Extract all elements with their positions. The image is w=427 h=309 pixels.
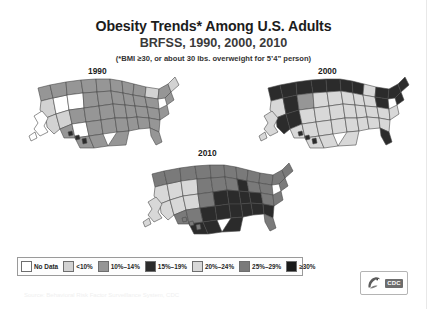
map-panel-2000: 2000 [256, 66, 421, 150]
map-panel-2010: 2010 [140, 148, 305, 240]
page-title: Obesity Trends* Among U.S. Adults [0, 18, 427, 34]
legend-label: 25%–29% [252, 263, 281, 271]
page-subtitle: BRFSS, 1990, 2000, 2010 [0, 36, 427, 51]
legend-label: 10%–14% [111, 263, 140, 271]
legend-item: ≥30% [286, 261, 315, 272]
legend-swatch-25-29 [239, 261, 250, 272]
legend-swatch-10-14 [98, 261, 109, 272]
legend-swatch-20-24 [192, 261, 203, 272]
cdc-logo: CDC [360, 271, 408, 295]
map-year-label-1990: 1990 [88, 66, 107, 76]
page-footnote: (*BMI ≥30, or about 30 lbs. overweight f… [0, 54, 427, 64]
legend-item: 25%–29% [239, 261, 281, 272]
legend-label: No Data [34, 263, 58, 271]
legend-swatch-no-data [21, 261, 32, 272]
slide-canvas: Obesity Trends* Among U.S. Adults BRFSS,… [0, 0, 427, 309]
legend: No Data <10% 10%–14% 15%–19% 20%–24% 25%… [17, 257, 303, 276]
us-choropleth-map-1990 [26, 66, 191, 150]
legend-swatch-lt-10 [63, 261, 74, 272]
map-year-label-2000: 2000 [318, 66, 337, 76]
legend-item: <10% [63, 261, 93, 272]
legend-item: No Data [21, 261, 58, 272]
map-panel-1990: 1990 [26, 66, 191, 150]
legend-label: 15%–19% [158, 263, 187, 271]
footer-source-text: Source: Behavioral Risk Factor Surveilla… [24, 292, 354, 298]
legend-label: <10% [76, 263, 93, 271]
cdc-wordmark: CDC [385, 279, 403, 288]
legend-item: 15%–19% [145, 261, 187, 272]
legend-swatch-gte-30 [286, 261, 297, 272]
us-choropleth-map-2000 [256, 66, 421, 150]
legend-item: 10%–14% [98, 261, 140, 272]
us-choropleth-map-2010 [140, 148, 305, 240]
legend-label: ≥30% [299, 263, 315, 271]
legend-item: 20%–24% [192, 261, 234, 272]
legend-label: 20%–24% [205, 263, 234, 271]
map-year-label-2010: 2010 [198, 148, 217, 158]
cdc-swoosh-icon [365, 274, 383, 292]
legend-swatch-15-19 [145, 261, 156, 272]
title-block: Obesity Trends* Among U.S. Adults BRFSS,… [0, 18, 427, 64]
